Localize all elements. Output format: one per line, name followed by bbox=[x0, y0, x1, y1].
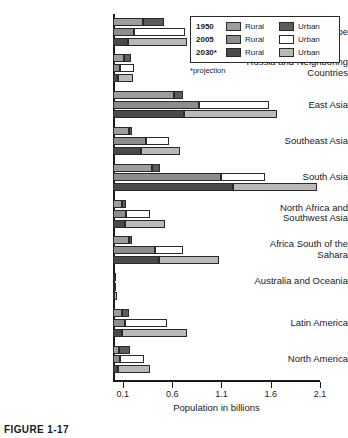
bar-segment-urban bbox=[114, 283, 116, 291]
legend-label-rural: Rural bbox=[245, 47, 264, 58]
x-axis-title: Population in billions bbox=[113, 402, 320, 413]
legend-swatch-urban bbox=[279, 22, 294, 31]
figure-caption: FIGURE 1-17 bbox=[4, 424, 69, 435]
bar-group bbox=[113, 283, 116, 291]
legend-swatch-rural bbox=[226, 22, 241, 31]
bar-segment-rural bbox=[113, 54, 124, 62]
legend-year-label: 2030* bbox=[196, 47, 217, 58]
bar-group bbox=[113, 18, 164, 26]
bar-segment-rural bbox=[113, 110, 184, 118]
bar-group bbox=[113, 38, 187, 46]
bar-segment-urban bbox=[118, 365, 151, 373]
x-axis-tick-label: 1.6 bbox=[256, 389, 286, 399]
legend-row: 2005RuralUrban bbox=[196, 34, 338, 45]
bar-group bbox=[113, 256, 219, 264]
bar-segment-rural bbox=[113, 210, 126, 218]
legend-swatch-urban bbox=[279, 35, 294, 44]
category-label: North America bbox=[238, 354, 348, 365]
bar-segment-rural bbox=[113, 147, 141, 155]
legend-row: 2030*RuralUrban bbox=[196, 47, 338, 58]
bar-segment-urban bbox=[126, 210, 151, 218]
bar-group bbox=[113, 220, 165, 228]
legend-label-urban: Urban bbox=[298, 47, 320, 58]
bar-segment-urban bbox=[118, 74, 133, 82]
bar-segment-rural bbox=[113, 127, 129, 135]
bar-segment-urban bbox=[152, 164, 160, 172]
bar-segment-rural bbox=[113, 246, 155, 254]
legend-label-rural: Rural bbox=[245, 21, 264, 32]
category-label: Southeast Asia bbox=[238, 136, 348, 147]
x-axis-tick bbox=[320, 382, 321, 388]
x-axis-tick-label: 2.1 bbox=[305, 389, 335, 399]
bar-segment-rural bbox=[113, 220, 125, 228]
bar-group bbox=[113, 355, 144, 363]
bar-group bbox=[113, 164, 160, 172]
legend-label-urban: Urban bbox=[298, 21, 320, 32]
bar-segment-rural bbox=[113, 236, 129, 244]
bar-segment-rural bbox=[113, 164, 152, 172]
bar-segment-urban bbox=[122, 329, 187, 337]
bar-segment-rural bbox=[113, 173, 221, 181]
bar-segment-rural bbox=[113, 91, 174, 99]
bar-group bbox=[113, 292, 117, 300]
bar-segment-rural bbox=[113, 183, 233, 191]
bar-segment-rural bbox=[113, 355, 120, 363]
bar-segment-urban bbox=[143, 18, 165, 26]
x-axis-tick bbox=[221, 382, 222, 388]
x-axis-line bbox=[113, 380, 320, 382]
bar-group bbox=[113, 91, 183, 99]
bar-group bbox=[113, 110, 277, 118]
bar-segment-urban bbox=[159, 256, 219, 264]
bar-segment-urban bbox=[134, 28, 185, 36]
bar-segment-urban bbox=[184, 110, 277, 118]
bar-group bbox=[113, 246, 183, 254]
bar-segment-urban bbox=[146, 137, 170, 145]
bar-group bbox=[113, 319, 167, 327]
bar-segment-rural bbox=[113, 28, 134, 36]
bar-group bbox=[113, 329, 187, 337]
x-axis-tick-label: 0.6 bbox=[157, 389, 187, 399]
legend-year-label: 2005 bbox=[196, 34, 214, 45]
bar-group bbox=[113, 346, 130, 354]
bar-segment-urban bbox=[120, 64, 134, 72]
bar-segment-urban bbox=[122, 309, 129, 317]
bar-segment-urban bbox=[125, 220, 165, 228]
x-axis-tick bbox=[123, 382, 124, 388]
bar-segment-urban bbox=[155, 246, 183, 254]
category-label: East Asia bbox=[238, 100, 348, 111]
category-label: South Asia bbox=[238, 172, 348, 183]
bar-group bbox=[113, 309, 129, 317]
legend-swatch-urban bbox=[279, 48, 294, 57]
x-axis-tick-label: 1.1 bbox=[206, 389, 236, 399]
bar-segment-urban bbox=[141, 147, 180, 155]
legend-year-label: 1950 bbox=[196, 21, 214, 32]
bar-segment-rural bbox=[113, 18, 143, 26]
category-label: Africa South of the Sahara bbox=[238, 239, 348, 260]
bar-group bbox=[113, 28, 185, 36]
x-axis-tick bbox=[172, 382, 173, 388]
bar-segment-rural bbox=[113, 256, 159, 264]
legend-label-rural: Rural bbox=[245, 34, 264, 45]
category-label: North Africa and Southwest Asia bbox=[238, 203, 348, 224]
bar-group bbox=[113, 210, 150, 218]
figure-container: EuropeRussia and Neighboring CountriesEa… bbox=[0, 0, 348, 438]
legend-swatch-rural bbox=[226, 48, 241, 57]
bar-segment-urban bbox=[125, 319, 167, 327]
bar-group bbox=[113, 273, 115, 281]
bar-segment-rural bbox=[113, 309, 122, 317]
bar-segment-urban bbox=[114, 292, 117, 300]
bar-segment-urban bbox=[119, 346, 130, 354]
legend-row: 1950RuralUrban bbox=[196, 21, 338, 32]
projection-note: *projection bbox=[190, 66, 225, 75]
legend-swatch-rural bbox=[226, 35, 241, 44]
bar-segment-rural bbox=[113, 38, 128, 46]
bar-segment-urban bbox=[233, 183, 317, 191]
bar-group bbox=[113, 127, 132, 135]
bar-segment-urban bbox=[129, 127, 132, 135]
bar-group bbox=[113, 200, 126, 208]
bar-segment-urban bbox=[174, 91, 183, 99]
bar-segment-rural bbox=[113, 101, 199, 109]
bar-segment-urban bbox=[122, 200, 126, 208]
bar-segment-urban bbox=[120, 355, 144, 363]
bar-group bbox=[113, 74, 133, 82]
